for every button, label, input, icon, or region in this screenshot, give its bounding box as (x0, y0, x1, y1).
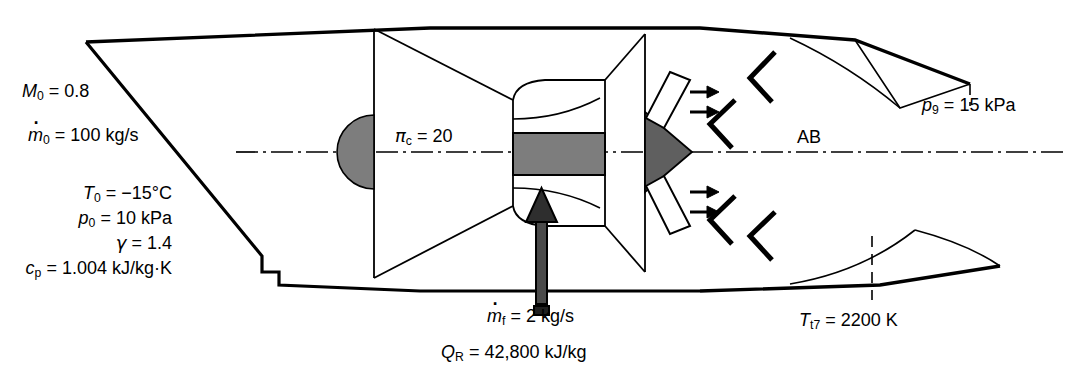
symbol-mdot: m (28, 126, 43, 144)
label-specific-heat-ratio: γ = 1.4 (0, 234, 172, 252)
label-freestream-pressure: p0 = 10 kPa (0, 209, 172, 229)
label-freestream-mach: M0 = 0.8 (22, 82, 89, 102)
label-freestream-temperature: T0 = −15°C (0, 184, 172, 204)
label-afterburner-exit-temperature: Tt7 = 2200 K (799, 311, 898, 331)
label-nozzle-exit-pressure: p9 = 15 kPa (922, 96, 1015, 116)
label-inlet-mass-flow: m0 = 100 kg/s (28, 126, 138, 146)
compressor-duct (374, 29, 513, 278)
flame-holder-2 (710, 100, 735, 148)
afterburner-spray-bar-upper (646, 72, 690, 128)
label-compressor-pressure-ratio: πc = 20 (395, 127, 453, 147)
label-specific-heat-cp: cp = 1.004 kJ/kg·K (0, 259, 172, 279)
figure-canvas: M0 = 0.8 m0 = 100 kg/s T0 = −15°C p0 = 1… (0, 0, 1091, 385)
symbol-gamma: γ (116, 232, 127, 253)
label-fuel-heating-value: QR = 42,800 kJ/kg (441, 343, 586, 363)
fuel-injection-arrow (526, 188, 557, 315)
nozzle-lower-flap (790, 230, 1000, 284)
label-afterburner: AB (797, 128, 821, 146)
flame-holders (710, 52, 775, 260)
flame-holder-3 (710, 196, 735, 244)
symbol-pi: π (395, 125, 406, 146)
symbol-mach: M (22, 81, 37, 101)
combustor-can (513, 80, 605, 226)
symbol-mdot-fuel: m (487, 307, 502, 325)
spinner-nose-cone (337, 115, 374, 189)
turbine-duct (605, 34, 645, 272)
afterburner-spray-bar-lower (646, 176, 690, 234)
tail-cone (645, 112, 692, 192)
flame-holder-1 (750, 52, 775, 102)
flame-holder-4 (750, 212, 775, 260)
label-fuel-mass-flow: mf = 2 kg/s (487, 307, 574, 327)
